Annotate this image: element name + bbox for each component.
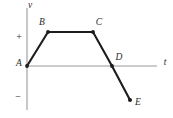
point-label-d: D <box>116 53 123 63</box>
vertical-axis-label: v <box>28 1 32 11</box>
negative-tick-label: − <box>15 92 21 102</box>
point-label-b: B <box>39 18 45 28</box>
vertex-marker-b <box>46 30 50 34</box>
vertex-marker-a <box>25 64 29 68</box>
point-label-e: E <box>135 98 141 108</box>
point-label-c: C <box>96 18 102 28</box>
vertex-marker-d <box>110 64 114 68</box>
vertex-marker-c <box>91 30 95 34</box>
vertex-marker-e <box>128 98 132 102</box>
graph-canvas <box>0 0 173 118</box>
point-label-a: A <box>16 59 22 69</box>
positive-tick-label: + <box>16 32 22 42</box>
horizontal-axis-label: t <box>164 58 167 68</box>
velocity-time-graph-figure: v t + − A B C D E <box>0 0 173 118</box>
